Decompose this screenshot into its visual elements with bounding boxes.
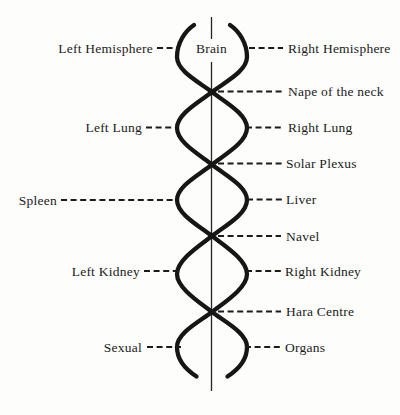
- label-left-kidney: Left Kidney: [72, 264, 140, 279]
- label-nape-of-neck: Nape of the neck: [288, 84, 384, 99]
- serpentine-body-diagram: Left Hemisphere Brain Right Hemisphere N…: [0, 0, 400, 415]
- label-spleen: Spleen: [19, 193, 57, 208]
- label-navel: Navel: [286, 229, 319, 244]
- label-organs: Organs: [285, 340, 325, 355]
- label-sexual: Sexual: [104, 340, 142, 355]
- label-left-hemisphere: Left Hemisphere: [58, 41, 153, 56]
- label-liver: Liver: [286, 192, 317, 207]
- label-brain: Brain: [196, 41, 227, 56]
- label-left-lung: Left Lung: [85, 120, 142, 135]
- label-right-hemisphere: Right Hemisphere: [288, 41, 391, 56]
- label-solar-plexus: Solar Plexus: [286, 156, 357, 171]
- label-right-kidney: Right Kidney: [285, 264, 361, 279]
- label-right-lung: Right Lung: [288, 120, 352, 135]
- label-hara-centre: Hara Centre: [286, 304, 354, 319]
- book-page: Left Hemisphere Brain Right Hemisphere N…: [0, 0, 400, 415]
